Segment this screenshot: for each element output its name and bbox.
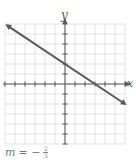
slope-denominator: 3 bbox=[44, 153, 48, 159]
slope-annotation: m = − 2 3 bbox=[5, 146, 48, 159]
graph bbox=[0, 0, 136, 161]
slope-fraction: 2 3 bbox=[43, 146, 48, 159]
y-axis-label: y bbox=[61, 8, 68, 22]
x-axis-label: x bbox=[127, 77, 133, 90]
slope-variable: m bbox=[5, 146, 15, 159]
axes bbox=[3, 18, 131, 144]
slope-equals: = − bbox=[18, 146, 40, 159]
data-line bbox=[5, 24, 126, 105]
